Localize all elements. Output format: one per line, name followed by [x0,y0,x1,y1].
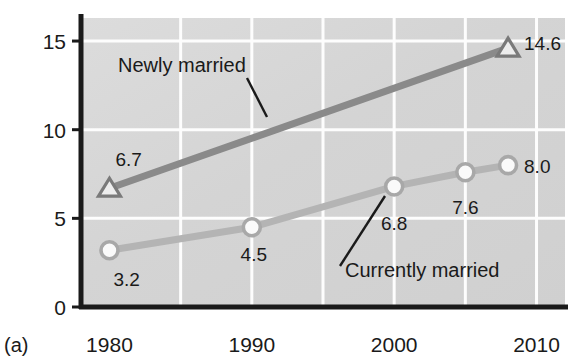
figure-caption: (a) [4,334,28,356]
y-tick-label: 0 [54,296,66,319]
data-point-label: 8.0 [524,156,550,177]
y-axis-tick-labels: 051015 [43,30,66,319]
data-marker-circle [386,178,403,195]
data-point-label: 6.7 [115,149,141,170]
data-marker-circle [101,242,118,259]
data-point-label: 6.8 [381,213,407,234]
x-tick-label: 1980 [86,333,133,356]
data-marker-circle [243,219,260,236]
data-point-label: 7.6 [452,197,478,218]
y-tick-label: 5 [54,207,66,230]
x-axis-tick-labels: 1980199020002010 [86,333,560,356]
data-point-label: 4.5 [241,244,267,265]
data-marker-circle [500,157,517,174]
data-marker-circle [457,164,474,181]
figure-container: 051015 1980199020002010 6.714.63.24.56.8… [0,0,572,361]
x-tick-label: 2010 [513,333,560,356]
x-tick-label: 1990 [228,333,275,356]
series-label-newly-married: Newly married [118,54,246,76]
data-point-label: 14.6 [524,33,561,54]
data-point-label: 3.2 [113,269,139,290]
y-tick-label: 15 [43,30,66,53]
x-tick-label: 2000 [371,333,418,356]
line-chart: 051015 1980199020002010 6.714.63.24.56.8… [0,0,572,361]
series-label-currently-married: Currently married [345,259,499,281]
y-tick-label: 10 [43,119,66,142]
